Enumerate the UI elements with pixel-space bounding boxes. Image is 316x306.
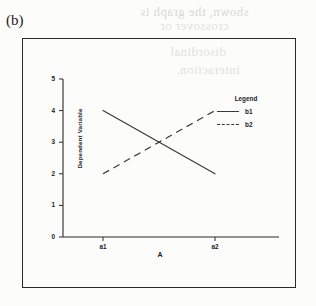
legend-item-b2: b2	[217, 121, 291, 128]
legend-label-b1: b1	[245, 108, 252, 115]
bleed-text-line-2: crossover or	[160, 18, 229, 34]
y-tick-label-3: 3	[41, 138, 55, 145]
bleed-text-line-1: shown, the graph is	[140, 4, 249, 20]
x-axis-label: A	[23, 251, 297, 258]
legend-title: Legend	[217, 95, 275, 102]
y-tick-label-5: 5	[41, 75, 55, 82]
legend-label-b2: b2	[245, 121, 252, 128]
legend: Legend b1 b2	[217, 95, 291, 134]
y-tick-label-2: 2	[41, 170, 55, 177]
x-tick-label-a2: a2	[204, 243, 226, 250]
panel-label: (b)	[6, 12, 24, 29]
figure-border-box: Dependent Variable 5 4 3 2 1 0 a1 a2 A L…	[22, 38, 296, 288]
y-tick-label-0: 0	[41, 233, 55, 240]
legend-swatch-solid-icon	[217, 109, 239, 115]
y-tick-label-1: 1	[41, 201, 55, 208]
y-tick-label-4: 4	[41, 107, 55, 114]
x-tick-label-a1: a1	[92, 243, 114, 250]
legend-item-b1: b1	[217, 108, 291, 115]
y-axis-label: Dependent Variable	[76, 79, 83, 199]
figure-page: shown, the graph is crossover or disordi…	[0, 0, 316, 306]
legend-swatch-dashed-icon	[217, 122, 239, 128]
plot-area: Dependent Variable 5 4 3 2 1 0 a1 a2 A L…	[23, 39, 297, 289]
